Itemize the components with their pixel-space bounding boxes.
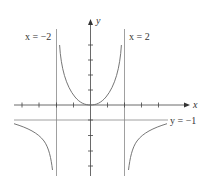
x-axis-label: x [192, 99, 198, 110]
horizontal-asymptote-label: y = −1 [170, 115, 196, 126]
y-axis [88, 19, 93, 176]
function-graph: y x x = −2 x = 2 y = −1 [0, 0, 207, 183]
left-asymptote-label: x = −2 [25, 31, 51, 42]
right-asymptote-label: x = 2 [129, 31, 150, 42]
curve-right-branch [129, 124, 168, 170]
y-axis-label: y [95, 15, 101, 26]
x-axis [14, 103, 190, 108]
x-axis-arrow-icon [184, 103, 190, 108]
curve-left-branch [14, 124, 53, 170]
y-axis-arrow-icon [88, 19, 93, 25]
